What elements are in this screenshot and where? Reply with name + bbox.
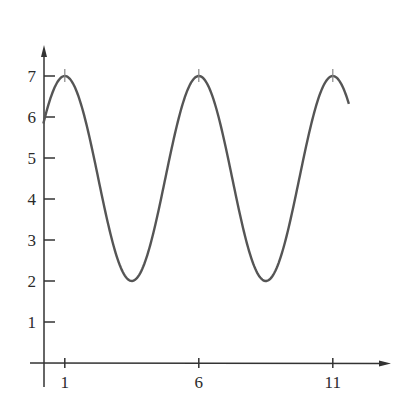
y-tick-label: 4 xyxy=(28,190,37,209)
x-axis xyxy=(30,363,385,364)
y-tick-label: 3 xyxy=(28,231,37,250)
y-tick-label: 2 xyxy=(28,272,37,291)
y-tick-label: 6 xyxy=(28,108,37,127)
maxima-marks xyxy=(65,69,333,82)
chart: 1234567 1611 xyxy=(0,0,413,413)
sinusoid-curve xyxy=(43,76,349,281)
y-ticks: 1234567 xyxy=(28,67,56,332)
y-tick-label: 1 xyxy=(28,313,37,332)
y-axis-arrow-icon xyxy=(41,45,47,57)
x-tick-label: 6 xyxy=(195,373,204,392)
x-tick-label: 1 xyxy=(61,373,70,392)
y-tick-label: 7 xyxy=(28,67,37,86)
axes xyxy=(30,45,391,387)
y-tick-label: 5 xyxy=(28,149,37,168)
x-axis-arrow-icon xyxy=(379,361,391,367)
x-tick-label: 11 xyxy=(325,373,341,392)
